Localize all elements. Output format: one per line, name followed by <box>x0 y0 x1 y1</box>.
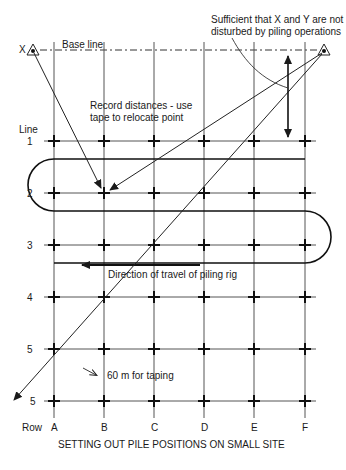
reference-point-x-icon <box>27 44 39 55</box>
pile-setting-diagram <box>0 0 346 470</box>
row-axis-label: Row <box>22 422 42 433</box>
row-label-f: F <box>302 422 308 433</box>
point-x-label: X <box>19 44 26 55</box>
row-label-d: D <box>201 422 208 433</box>
row-label-e: E <box>251 422 258 433</box>
line-label-2: 2 <box>27 188 33 199</box>
base-line-label: Base line <box>62 39 103 50</box>
reference-point-y-icon <box>318 44 330 55</box>
travel-direction-label: Direction of travel of piling rig <box>108 269 237 280</box>
undisturbed-note-line2: disturbed by piling operations <box>211 26 341 37</box>
taping-note: 60 m for taping <box>107 370 174 381</box>
line-axis-label: Line <box>19 124 38 135</box>
row-label-b: B <box>101 422 108 433</box>
row-grid-lines <box>54 42 305 418</box>
record-note-line1: Record distances - use <box>90 100 192 111</box>
record-note-line2: tape to relocate point <box>90 112 183 123</box>
row-label-a: A <box>51 422 58 433</box>
line-label-5a: 5 <box>27 344 33 355</box>
diagram-title: SETTING OUT PILE POSITIONS ON SMALL SITE <box>58 439 285 450</box>
line-label-4: 4 <box>27 292 33 303</box>
taping-leader <box>83 368 96 375</box>
undisturbed-note-line1: Sufficient that X and Y are not <box>211 14 343 25</box>
row-label-c: C <box>151 422 158 433</box>
line-label-3: 3 <box>27 240 33 251</box>
piling-rig-path <box>28 159 331 263</box>
line-label-5b: 5 <box>30 396 36 407</box>
line-label-1: 1 <box>27 136 33 147</box>
